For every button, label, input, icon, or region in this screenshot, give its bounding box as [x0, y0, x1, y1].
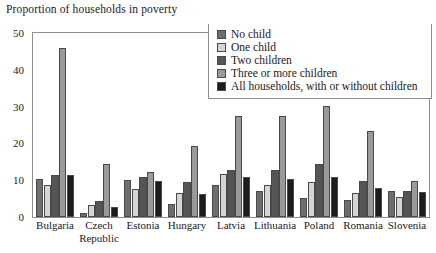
bar — [315, 164, 322, 217]
bar — [212, 185, 219, 217]
legend-label: All households, with or without children — [231, 80, 418, 93]
x-tick-label: Bulgaria — [36, 219, 74, 232]
x-tick-label: CzechRepublic — [79, 219, 119, 245]
chart-legend: No childOne childTwo childrenThree or mo… — [208, 24, 432, 99]
y-tick-label: 30 — [13, 101, 24, 112]
bar — [147, 172, 154, 217]
bar-group — [165, 33, 209, 217]
x-tick-label: Slovenia — [388, 219, 427, 232]
legend-item: Three or more children — [217, 67, 425, 80]
bar — [183, 182, 190, 217]
bar — [256, 191, 263, 217]
bar — [367, 131, 374, 217]
y-tick-label: 40 — [13, 64, 24, 75]
bar — [139, 177, 146, 217]
bar — [95, 201, 102, 217]
bar — [331, 177, 338, 217]
poverty-bar-chart: Proportion of households in poverty 0102… — [0, 0, 436, 253]
x-axis: BulgariaCzechRepublicEstoniaHungaryLatvi… — [0, 219, 436, 253]
bar — [235, 116, 242, 217]
legend-item: One child — [217, 41, 425, 54]
bar — [359, 181, 366, 217]
y-tick-label: 10 — [13, 175, 24, 186]
legend-label: Two children — [231, 54, 292, 67]
x-tick-label: Estonia — [127, 219, 160, 232]
bar — [287, 179, 294, 217]
bar — [403, 191, 410, 217]
x-tick-label: Poland — [304, 219, 335, 232]
bar — [191, 146, 198, 217]
bar — [36, 179, 43, 217]
bar — [132, 189, 139, 217]
bar — [199, 194, 206, 217]
bar — [59, 48, 66, 217]
legend-swatch-icon — [217, 43, 226, 52]
bar — [323, 106, 330, 217]
bar — [300, 198, 307, 217]
y-tick-label: 50 — [13, 28, 24, 39]
legend-swatch-icon — [217, 69, 226, 78]
y-axis: 01020304050 — [0, 0, 32, 253]
bar — [264, 185, 271, 217]
legend-label: One child — [231, 41, 276, 54]
bar — [308, 182, 315, 217]
bar — [155, 181, 162, 217]
legend-label: Three or more children — [231, 67, 337, 80]
x-tick-label: Romania — [343, 219, 383, 232]
x-tick-label: Latvia — [217, 219, 245, 232]
x-tick-label: Lithuania — [254, 219, 296, 232]
bar — [124, 180, 131, 217]
bar — [344, 200, 351, 217]
bar — [111, 207, 118, 217]
legend-label: No child — [231, 28, 271, 41]
bar — [419, 192, 426, 217]
bar-group — [33, 33, 77, 217]
bar — [88, 205, 95, 217]
bar — [51, 175, 58, 217]
legend-swatch-icon — [217, 30, 226, 39]
bar — [396, 197, 403, 217]
bar — [44, 185, 51, 217]
bar — [411, 181, 418, 217]
legend-item: All households, with or without children — [217, 80, 425, 93]
bar — [103, 164, 110, 217]
bar — [243, 177, 250, 217]
legend-swatch-icon — [217, 56, 226, 65]
bar — [80, 213, 87, 217]
bar — [227, 170, 234, 217]
bar — [375, 188, 382, 217]
bar — [388, 191, 395, 217]
bar — [352, 193, 359, 217]
legend-item: Two children — [217, 54, 425, 67]
bar — [279, 116, 286, 217]
bar — [271, 170, 278, 217]
legend-swatch-icon — [217, 82, 226, 91]
bar-group — [121, 33, 165, 217]
legend-item: No child — [217, 28, 425, 41]
bar — [67, 175, 74, 217]
x-tick-label: Hungary — [168, 219, 207, 232]
bar — [168, 204, 175, 217]
bar-group — [77, 33, 121, 217]
y-tick-label: 20 — [13, 138, 24, 149]
bar — [220, 174, 227, 217]
bar — [176, 193, 183, 217]
